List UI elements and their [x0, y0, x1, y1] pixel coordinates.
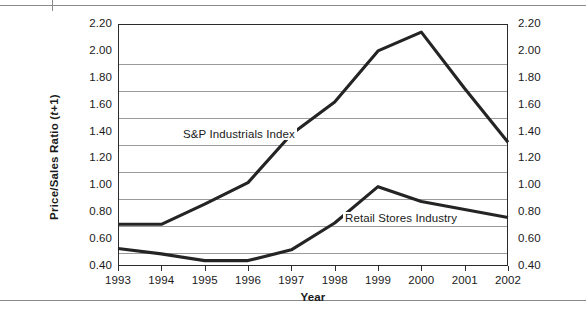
y-axis-title-main: Price/Sales Ratio ( — [48, 116, 60, 220]
x-tick-mark — [291, 266, 292, 271]
series-label-retail-stores-industry: Retail Stores Industry — [343, 212, 459, 224]
y-tick-label-right: 1.80 — [518, 72, 541, 84]
x-tick-mark — [335, 266, 336, 271]
x-axis-title: Year — [118, 291, 508, 303]
gridline — [119, 226, 507, 227]
x-tick-mark — [118, 266, 119, 271]
y-tick-label-right: 1.20 — [518, 152, 541, 164]
y-tick-label-left: 1.00 — [89, 179, 112, 191]
x-tick-mark — [205, 266, 206, 271]
x-tick-mark — [508, 266, 509, 271]
y-tick-label-right: 1.60 — [518, 99, 541, 111]
gridline — [119, 91, 507, 92]
plot-area — [118, 24, 508, 266]
y-tick-label-left: 0.80 — [89, 206, 112, 218]
y-axis-left: 2.202.001.801.601.401.201.000.800.600.40 — [72, 0, 112, 315]
gridline — [119, 253, 507, 254]
gridline — [119, 64, 507, 65]
x-tick-mark — [465, 266, 466, 271]
y-tick-label-left: 1.80 — [89, 72, 112, 84]
y-tick-label-right: 1.40 — [518, 126, 541, 138]
series-label-sp-industrials-index: S&P Industrials Index — [181, 128, 297, 140]
y-axis-title: Price/Sales Ratio (t+1) — [48, 57, 60, 257]
gridline — [119, 172, 507, 173]
y-tick-label-right: 2.00 — [518, 45, 541, 57]
gridline — [119, 199, 507, 200]
x-tick-mark — [248, 266, 249, 271]
y-tick-label-left: 1.20 — [89, 152, 112, 164]
x-tick-mark — [421, 266, 422, 271]
gridline — [119, 118, 507, 119]
x-tick-label: 2002 — [478, 274, 538, 286]
y-tick-label-left: 1.60 — [89, 99, 112, 111]
line-chart: Price/Sales Ratio (t+1) 2.202.001.801.60… — [0, 0, 586, 315]
figure-container: Price/Sales Ratio (t+1) 2.202.001.801.60… — [0, 0, 586, 315]
y-tick-label-left: 2.20 — [89, 18, 112, 30]
y-tick-label-right: 0.80 — [518, 206, 541, 218]
y-tick-label-left: 0.40 — [89, 260, 112, 272]
y-axis-right: 2.202.001.801.601.401.201.000.800.600.40 — [518, 0, 558, 315]
y-tick-label-right: 1.00 — [518, 179, 541, 191]
y-tick-label-left: 1.40 — [89, 126, 112, 138]
gridline — [119, 145, 507, 146]
y-tick-label-right: 2.20 — [518, 18, 541, 30]
y-tick-label-left: 2.00 — [89, 45, 112, 57]
y-tick-label-right: 0.40 — [518, 260, 541, 272]
x-tick-mark — [161, 266, 162, 271]
y-axis-title-tail: +1) — [48, 94, 60, 112]
y-axis-title-italic-t: t — [48, 112, 60, 116]
y-tick-label-left: 0.60 — [89, 233, 112, 245]
x-tick-mark — [378, 266, 379, 271]
y-tick-label-right: 0.60 — [518, 233, 541, 245]
